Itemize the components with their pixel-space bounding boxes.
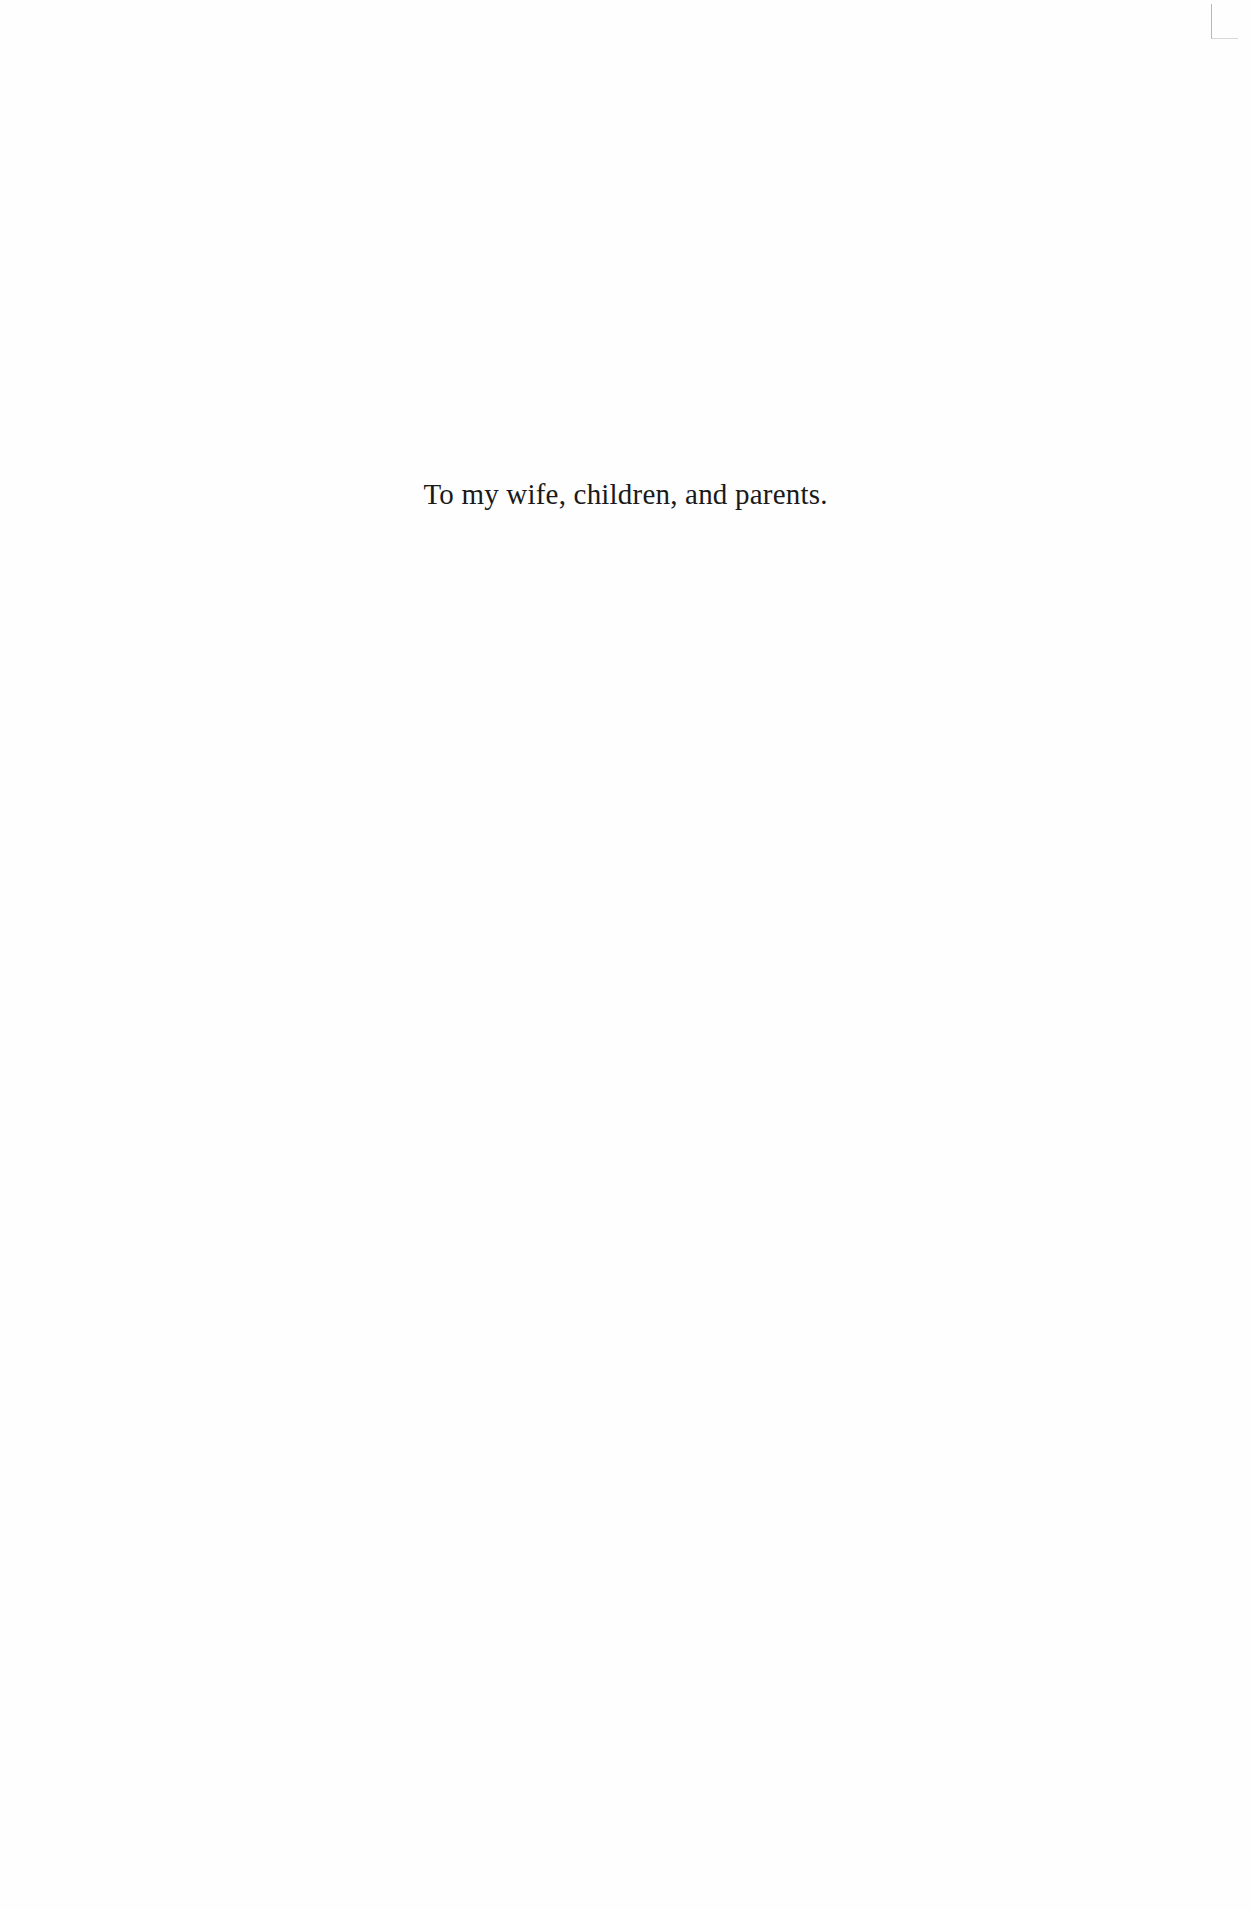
book-page: To my wife, children, and parents.: [0, 0, 1251, 1910]
dedication-text: To my wife, children, and parents.: [0, 478, 1251, 511]
crop-mark: [1211, 4, 1238, 39]
